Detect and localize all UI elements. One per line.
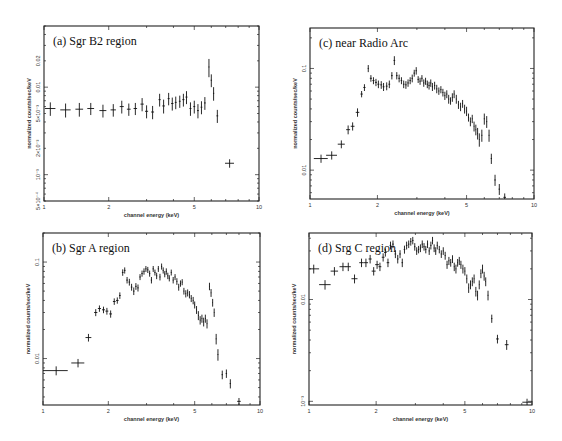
data-point [416, 67, 417, 74]
x-tick-label: 1 [307, 408, 310, 414]
data-point [479, 133, 480, 146]
data-point [440, 86, 441, 93]
data-point [489, 130, 490, 142]
data-point [205, 315, 206, 323]
data-point [420, 244, 421, 252]
plot-frame [309, 233, 532, 405]
data-point [211, 74, 212, 87]
data-point [169, 275, 170, 281]
data-point [143, 268, 144, 274]
data-point [494, 175, 495, 186]
data-point [178, 284, 179, 291]
panel-d-srg-c: 125100.0110⁻³channel energy (keV)normali… [291, 233, 535, 422]
data-point [410, 238, 411, 246]
data-point [166, 268, 167, 274]
data-point [338, 140, 345, 148]
data-point [226, 369, 227, 377]
y-tick-label: 0.1 [301, 65, 307, 73]
data-point [182, 279, 183, 285]
data-point [380, 81, 382, 89]
data-point [456, 95, 457, 104]
y-tick-label: 10⁻³ [300, 396, 306, 407]
data-point [441, 250, 442, 258]
data-point [450, 97, 451, 104]
data-point [488, 291, 489, 301]
data-point [452, 93, 453, 102]
data-point [126, 277, 128, 283]
data-point [405, 81, 406, 89]
data-point [200, 316, 201, 324]
data-point [43, 366, 68, 375]
data-point [452, 255, 453, 263]
data-point [466, 107, 467, 116]
data-point [179, 96, 181, 108]
data-point [474, 122, 475, 132]
data-point [408, 240, 409, 248]
data-point [434, 82, 435, 90]
data-point [346, 263, 351, 271]
x-axis-label: channel energy (keV) [124, 416, 179, 422]
data-point [463, 265, 464, 274]
x-tick-label: 2 [107, 408, 110, 414]
y-tick-label: 5×10⁻⁴ [35, 191, 41, 209]
data-point [356, 108, 360, 116]
data-point [401, 77, 403, 84]
data-point [156, 273, 157, 279]
plot-frame [310, 28, 534, 199]
data-point [197, 104, 199, 118]
data-point [402, 259, 403, 267]
data-point [445, 252, 446, 260]
x-tick-label: 2 [376, 202, 379, 208]
data-point [458, 101, 459, 109]
data-point [396, 72, 398, 79]
data-point [133, 287, 134, 295]
data-point [481, 269, 482, 278]
data-point [459, 257, 460, 265]
data-point [151, 277, 152, 283]
data-point [208, 59, 209, 77]
x-tick-label: 5 [463, 408, 466, 414]
data-point [479, 280, 480, 289]
data-point [359, 259, 364, 267]
data-point [430, 242, 431, 250]
data-point [162, 100, 165, 114]
data-point [120, 101, 124, 114]
data-point [399, 250, 401, 258]
data-point [448, 257, 449, 265]
panel-b-sgr-a: 125100.10.01channel energy (keV)normaliz… [25, 233, 263, 422]
data-point [482, 265, 483, 274]
data-point [159, 94, 161, 107]
data-point [418, 246, 419, 253]
data-point [207, 319, 208, 328]
data-point [412, 237, 413, 244]
data-point [462, 100, 463, 108]
data-point [437, 242, 438, 250]
data-point [438, 87, 439, 94]
data-point [464, 105, 465, 114]
data-point [135, 283, 136, 290]
y-axis-label: normalized counts/sec/keV [26, 78, 32, 149]
data-point [442, 89, 443, 97]
data-point [450, 259, 451, 267]
x-axis-label: channel energy (keV) [394, 210, 449, 216]
data-point [412, 75, 413, 83]
data-point [466, 275, 467, 284]
data-point [387, 259, 390, 267]
data-point [203, 318, 204, 327]
data-point [149, 271, 150, 277]
data-point [428, 82, 429, 90]
data-point [171, 270, 172, 276]
data-point [153, 266, 154, 272]
data-point [394, 56, 396, 65]
data-point [448, 95, 449, 104]
data-point [505, 340, 509, 350]
data-point [116, 297, 119, 303]
data-point [429, 247, 430, 255]
data-point [225, 159, 234, 167]
data-point [193, 101, 195, 114]
data-series [45, 59, 234, 168]
data-point [474, 275, 475, 284]
y-tick-label: 0.02 [35, 55, 41, 66]
data-point [464, 267, 465, 275]
x-tick-label: 2 [107, 204, 110, 210]
